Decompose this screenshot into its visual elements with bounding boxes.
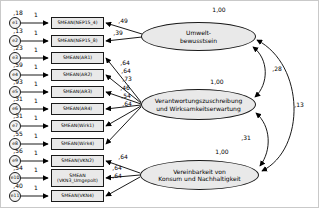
weight-label: 1 [28,11,44,18]
error-variance-label: ,93 [10,78,26,85]
loading-label: ,64 [109,164,125,171]
latent-label-line2: bewusstsein [180,37,217,44]
weight-label: 1 [28,29,44,36]
covariance-label: ,31 [238,134,254,141]
latent-label-line2: Konsum und Nachhaltigkeit [158,175,240,182]
loading-label: ,39 [110,29,126,36]
loading-label: ,46 [117,84,133,91]
error-circle: e11 [9,190,21,202]
indicator-box: SMEAN(AR1) [51,52,104,64]
loading-label: ,64 [109,172,125,179]
latent-umweltbewusstsein: Umwelt- bewusstsein [141,22,256,51]
error-variance-label: ,56 [10,147,26,154]
latent-variance-label: 1,00 [207,6,231,13]
covariance-label: ,13 [291,101,307,108]
error-variance-label: ,59 [10,61,26,68]
indicator-box: SMEAN(AR2) [51,69,104,81]
error-variance-label: ,23 [10,44,26,51]
indicator-box: SMEAN(NEP15_4) [51,17,104,29]
indicator-box: SMEAN(AR3) [51,86,104,98]
latent-label: Verantwortungszuschreibung [155,97,243,104]
indicator-label: SMEAN(Wirk4) [61,141,94,146]
loading-label: ,64 [115,153,131,160]
weight-label: 1 [28,80,44,87]
error-variance-label: ,54 [10,164,26,171]
indicator-box: SMEAN(NEP15_8) [51,35,104,47]
indicator-label-line2: (VKN3_Umgepolt) [57,178,98,183]
indicator-label: SMEAN(AR4) [63,106,92,111]
loading-label: ,64 [117,59,133,66]
latent-variance-label: 1,00 [205,78,229,85]
error-variance-label: ,55 [10,130,26,137]
loading-label: ,73 [119,75,135,82]
covariance-arrows [253,40,294,171]
indicator-label: SMEAN(NEP15_4) [57,20,97,25]
weight-label: 1 [28,114,44,121]
indicator-label: SMEAN(AR2) [63,72,92,77]
error-variance-label: ,18 [10,9,26,16]
indicator-label: SMEAN(VKN2) [61,158,93,163]
error-variance-label: ,31 [10,112,26,119]
indicator-box: SMEAN(VKN4) [51,190,104,202]
latent-vereinbarkeit-konsum: Vereinbarkeit von Konsum und Nachhaltigk… [140,160,259,190]
indicator-label: SMEAN(AR3) [63,89,92,94]
latent-label-line2: und Wirksamkeitserwartung [156,105,240,112]
weight-label: 1 [28,63,44,70]
indicator-box: SMEAN(VKN2) [51,155,104,167]
weight-label: 1 [28,184,44,191]
loading-label: ,64 [119,100,135,107]
indicator-box: SMEAN (VKN3_Umgepolt) [51,169,104,187]
loading-label: ,49 [115,17,131,24]
weight-label: 1 [28,132,44,139]
latent-label: Vereinbarkeit von [173,168,226,175]
indicator-label: SMEAN(Wirk1) [61,123,94,128]
weight-label: 1 [28,149,44,156]
indicator-label: SMEAN(VKN4) [61,193,93,198]
indicator-box: SMEAN(AR4) [51,103,104,115]
indicator-box: SMEAN(Wirk4) [51,138,104,150]
loading-label: ,54 [118,92,134,99]
sem-path-diagram: ,18 ,13 ,23 ,59 ,93 ,31 ,31 ,55 ,56 ,54 … [0,0,319,208]
latent-variance-label: 1,00 [210,148,234,155]
latent-label: Umwelt- [186,29,211,36]
covariance-label: ,28 [269,65,285,72]
weight-label: 1 [28,166,44,173]
weight-label: 1 [28,46,44,53]
indicator-label: SMEAN(AR1) [63,55,92,60]
indicator-box: SMEAN(Wirk1) [51,120,104,132]
weight-label: 1 [28,97,44,104]
error-variance-label: ,13 [10,27,26,34]
indicator-label: SMEAN(NEP15_8) [57,38,97,43]
error-variance-label: ,40 [10,182,26,189]
loading-label: ,64 [118,67,134,74]
latent-verantwortung-wirksamkeit: Verantwortungszuschreibung und Wirksamke… [141,89,256,120]
error-variance-label: ,31 [10,95,26,102]
